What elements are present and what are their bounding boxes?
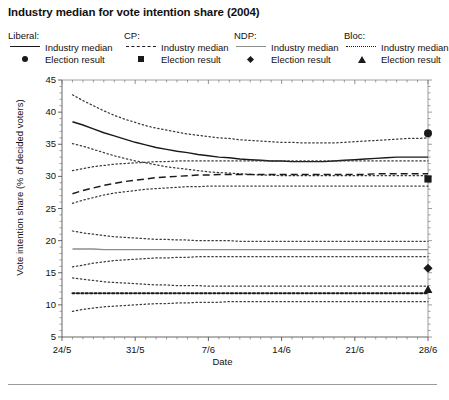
legend-label-ndp-median: Industry median [271, 42, 339, 53]
y-tick-label: 10 [38, 300, 56, 309]
legend-key-grey-line-icon [234, 41, 268, 53]
y-tick-label: 20 [38, 236, 56, 245]
x-tick-label: 7/6 [188, 344, 228, 355]
series-line [72, 257, 428, 267]
legend-key-solid-line-icon [8, 41, 42, 53]
legend-row-liberal-median: Industry median [8, 41, 113, 53]
x-tick-label: 14/6 [262, 344, 302, 355]
legend-party-cp: CP: [124, 30, 229, 41]
series-line [72, 302, 428, 312]
legend-group-liberal: Liberal: Industry median Election result [8, 30, 113, 65]
x-tick-label: 24/5 [42, 344, 82, 355]
legend-row-cp-median: Industry median [124, 41, 229, 53]
series-line [72, 122, 428, 162]
x-tick-label: 28/6 [408, 344, 448, 355]
election-result-marker [424, 129, 432, 137]
chart-legend: Liberal: Industry median Election result… [6, 30, 442, 66]
legend-label-cp-median: Industry median [161, 42, 229, 53]
x-tick-label: 31/5 [115, 344, 155, 355]
series-line [72, 161, 428, 171]
legend-party-bloc: Bloc: [344, 30, 449, 41]
page-title: Industry median for vote intention share… [8, 6, 260, 18]
legend-party-liberal: Liberal: [8, 30, 113, 41]
x-axis-title: Date [0, 356, 445, 367]
y-tick-label: 5 [38, 332, 56, 341]
y-axis-title: Vote intention share (% of decided voter… [14, 73, 25, 303]
legend-key-dashed-line-icon [124, 41, 158, 53]
series-line [72, 95, 428, 143]
legend-label-bloc-median: Industry median [381, 42, 449, 53]
legend-group-bloc: Bloc: Industry median Election result [344, 30, 449, 65]
legend-label-liberal-result: Election result [45, 54, 105, 65]
legend-label-liberal-median: Industry median [45, 42, 113, 53]
series-line [72, 186, 428, 203]
legend-key-dotted-line-icon [344, 41, 378, 53]
y-tick-label: 15 [38, 268, 56, 277]
y-tick-label: 40 [38, 107, 56, 116]
legend-row-ndp-median: Industry median [234, 41, 339, 53]
y-tick-label: 45 [38, 75, 56, 84]
legend-label-cp-result: Election result [161, 54, 221, 65]
series-line [72, 174, 428, 194]
legend-group-ndp: NDP: Industry median Election result [234, 30, 339, 65]
election-result-marker [424, 175, 431, 182]
series-line [72, 231, 428, 241]
y-tick-label: 35 [38, 139, 56, 148]
legend-label-ndp-result: Election result [271, 54, 331, 65]
series-line [72, 278, 428, 286]
legend-row-bloc-median: Industry median [344, 41, 449, 53]
legend-label-bloc-result: Election result [381, 54, 441, 65]
series-line [72, 249, 428, 250]
chart-plot-area: Vote intention share (% of decided voter… [0, 64, 445, 364]
legend-party-ndp: NDP: [234, 30, 339, 41]
chart-svg [0, 64, 445, 364]
footer-divider [8, 384, 437, 385]
legend-group-cp: CP: Industry median Election result [124, 30, 229, 65]
election-result-marker [423, 264, 432, 273]
y-tick-label: 30 [38, 171, 56, 180]
y-tick-label: 25 [38, 204, 56, 213]
x-tick-label: 21/6 [335, 344, 375, 355]
